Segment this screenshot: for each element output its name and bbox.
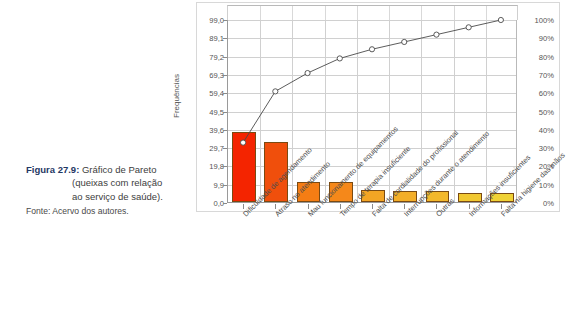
y-axis-tick-label: 59,4	[190, 89, 224, 98]
plot-area	[227, 20, 517, 203]
y-axis-tick-label: 9,9	[190, 180, 224, 189]
y2-axis-tick-label: 60%	[520, 89, 554, 98]
gridline-vertical-top	[292, 6, 293, 20]
y2-axis-tick-label: 50%	[520, 107, 554, 116]
y2-axis-tick-label: 100%	[520, 16, 554, 25]
y-axis-tick-mark	[223, 148, 227, 149]
gridline-vertical	[357, 20, 358, 202]
gridline-vertical-top	[325, 6, 326, 20]
y-axis-tick-mark	[223, 93, 227, 94]
y2-axis-tick-label: 90%	[520, 34, 554, 43]
y-axis-tick-mark	[223, 130, 227, 131]
y-axis-left: 99,089,179,269,359,449,539,629,719,89,90…	[186, 0, 224, 215]
gridline-vertical	[260, 20, 261, 202]
gridline-vertical	[421, 20, 422, 202]
y-axis-tick-label: 19,8	[190, 162, 224, 171]
gridline-horizontal	[228, 130, 516, 131]
gridline-vertical-top	[421, 6, 422, 20]
caption-line-1: Figura 27.9: Gráfico de Pareto	[26, 163, 198, 176]
y2-axis-tick-label: 0%	[520, 199, 554, 208]
gridline-vertical-top	[357, 6, 358, 20]
y-axis-tick-label: 49,5	[190, 107, 224, 116]
y-axis-tick-label: 99,0	[190, 16, 224, 25]
y-axis-tick-label: 69,3	[190, 70, 224, 79]
caption-title: Gráfico de Pareto	[82, 164, 156, 175]
y-axis-tick-label: 39,6	[190, 125, 224, 134]
y-axis-tick-mark	[223, 166, 227, 167]
figure-number: Figura 27.9:	[26, 164, 79, 175]
y2-axis-tick-label: 80%	[520, 52, 554, 61]
caption-line-3: ao serviço de saúde).	[26, 190, 198, 203]
gridline-vertical	[486, 20, 487, 202]
gridline-horizontal	[228, 75, 516, 76]
gridline-horizontal	[228, 38, 516, 39]
gridline-horizontal	[228, 20, 516, 21]
gridline-vertical	[292, 20, 293, 202]
y-axis-tick-mark	[223, 112, 227, 113]
gridline-horizontal	[228, 112, 516, 113]
bar	[232, 132, 256, 202]
y-axis-tick-mark	[223, 20, 227, 21]
y2-axis-tick-label: 70%	[520, 70, 554, 79]
figure-caption: Figura 27.9: Gráfico de Pareto (queixas …	[26, 163, 198, 203]
y-axis-tick-mark	[223, 185, 227, 186]
y-axis-tick-label: 79,2	[190, 52, 224, 61]
gridline-vertical-top	[389, 6, 390, 20]
plot-top-frame	[227, 5, 518, 20]
y-axis-tick-mark	[223, 57, 227, 58]
gridline-vertical-top	[454, 6, 455, 20]
y2-axis-tick-label: 30%	[520, 144, 554, 153]
gridline-vertical	[325, 20, 326, 202]
caption-line-2: (queixas com relação	[26, 176, 198, 189]
y-axis-title: Frequências	[172, 74, 181, 118]
y-axis-tick-label: 89,1	[190, 34, 224, 43]
y-axis-tick-label: 29,7	[190, 144, 224, 153]
gridline-horizontal	[228, 57, 516, 58]
gridline-vertical-top	[486, 6, 487, 20]
y2-axis-tick-label: 40%	[520, 125, 554, 134]
y-axis-tick-mark	[223, 38, 227, 39]
gridline-vertical	[389, 20, 390, 202]
gridline-vertical-top	[260, 6, 261, 20]
y-axis-tick-mark	[223, 75, 227, 76]
gridline-vertical	[454, 20, 455, 202]
y-axis-tick-label: 0,0	[190, 199, 224, 208]
y-axis-tick-mark	[223, 203, 227, 204]
gridline-horizontal	[228, 93, 516, 94]
